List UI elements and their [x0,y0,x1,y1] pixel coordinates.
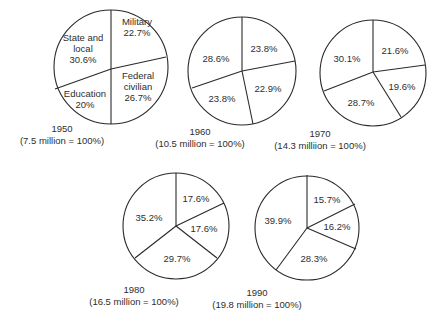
slice-label-education-1990: 28.3% [301,253,328,264]
year-label-1990: 1990 [212,287,302,299]
slice-label-state-local-1990: 39.9% [265,215,292,226]
slice-label-military-1990: 15.7% [314,194,341,205]
slice-label-federal-civilian-1990: 16.2% [324,221,351,232]
total-label-1990: (19.8 million = 100%) [212,299,302,311]
pie-1990-graphic [0,0,437,312]
caption-1990: 1990 (19.8 million = 100%) [212,287,302,310]
